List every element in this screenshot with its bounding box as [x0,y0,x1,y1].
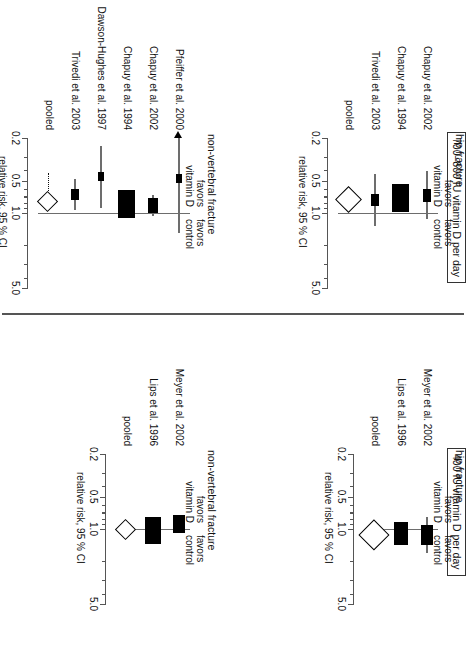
axis-tick [102,512,106,513]
favors-control-label: favorscontrol [432,535,454,565]
axis-tick [350,505,354,506]
axis-tick-label: 0.2 [336,445,347,463]
confidence-interval-line [178,138,179,233]
axis-tick [350,524,354,525]
axis-tick [102,594,106,595]
study-effect-marker [176,174,183,183]
axis-tick [350,594,354,595]
axis-tick [324,157,328,158]
axis-tick [348,454,354,455]
axis-tick-label: 0.2 [310,129,321,147]
study-label: Meyer et al. 2002 [174,369,185,446]
axis-tick [322,181,328,182]
x-axis: 0.20.51.05.0 [310,138,328,288]
axis-tick [100,604,106,605]
null-effect-line [38,213,190,214]
favors-vitamin-d-label: favorsvitamin D [432,155,454,207]
x-axis-label: relative risk, 95 % CI [323,472,334,564]
study-label: Chapuy et al. 2002 [422,46,433,130]
favors-control-label: favorscontrol [184,219,206,249]
study-effect-marker [394,522,408,545]
pooled-effect-diamond [115,519,136,540]
axis-tick [24,208,28,209]
x-axis-label: relative risk, 95 % CI [0,156,8,248]
x-axis-label: relative risk, 95 % CI [75,472,86,564]
axis-tick [350,512,354,513]
axis-tick-label: 5.0 [336,595,347,613]
ci-arrow-icon [174,131,182,138]
favors-vitamin-d-label: favorsvitamin D [184,155,206,207]
panel-outcome-title: hip fracture [454,450,466,503]
axis-tick [102,580,106,581]
axis-tick [24,278,28,279]
axis-tick [102,486,106,487]
axis-tick [322,213,328,214]
pooled-effect-diamond [335,186,362,213]
favors-control-label: favorscontrol [432,219,454,249]
figure-stage: 400 IU vitamin D per dayhip fracturefavo… [0,0,470,651]
axis-tick [324,208,328,209]
axis-tick-label: 0.5 [310,172,321,190]
axis-tick-label: 1.0 [336,520,347,538]
panel-outcome-title: non-vertebral fracture [206,134,218,234]
axis-tick [348,497,354,498]
axis-tick [102,524,106,525]
panel-outcome-title: hip fracture [454,134,466,187]
axis-tick [100,529,106,530]
study-label: Lips et al. 1996 [396,378,407,446]
axis-tick [324,245,328,246]
axis-tick [324,278,328,279]
study-effect-marker [421,525,433,545]
x-axis: 0.20.51.05.0 [10,138,28,288]
axis-tick [348,529,354,530]
panel-outcome-title: non-vertebral fracture [206,450,218,550]
axis-tick-label: 0.5 [88,488,99,506]
study-label: Trivedi et al. 2003 [370,51,381,130]
axis-tick-label: 1.0 [310,204,321,222]
x-axis-label: relative risk, 95 % CI [297,156,308,248]
axis-tick [22,138,28,139]
axis-tick-label: 1.0 [88,520,99,538]
group-separator [2,313,464,315]
axis-tick-label: 0.2 [88,445,99,463]
axis-tick [324,189,328,190]
study-effect-marker [423,189,432,202]
axis-tick [100,454,106,455]
axis-tick [24,157,28,158]
pooled-label: pooled [122,416,133,446]
axis-tick [348,604,354,605]
axis-tick-label: 0.2 [10,129,21,147]
study-effect-marker [145,517,161,544]
axis-tick [102,519,106,520]
axis-tick [22,213,28,214]
study-label: Dawson-Hughes et al. 1997 [96,7,107,130]
axis-tick [24,170,28,171]
axis-tick-label: 5.0 [310,279,321,297]
axis-tick [100,497,106,498]
x-axis: 0.20.51.05.0 [336,454,354,604]
study-effect-marker [371,194,379,206]
pooled-effect-diamond [359,519,390,550]
study-effect-marker [148,198,158,213]
study-effect-marker [393,184,410,212]
axis-tick-label: 0.5 [336,488,347,506]
x-axis: 0.20.51.05.0 [88,454,106,604]
axis-tick [350,473,354,474]
study-label: Meyer et al. 2002 [422,369,433,446]
axis-tick [24,264,28,265]
study-label: Chapuy et al. 2002 [148,46,159,130]
axis-tick [102,505,106,506]
null-effect-line [338,213,438,214]
pooled-label: pooled [44,100,55,130]
favors-control-label: favorscontrol [184,535,206,565]
axis-tick-label: 5.0 [10,279,21,297]
axis-tick [350,580,354,581]
favors-vitamin-d-label: favorsvitamin D [432,471,454,523]
study-effect-marker [71,189,79,200]
axis-tick-label: 0.5 [10,172,21,190]
axis-tick [324,264,328,265]
axis-tick [24,203,28,204]
study-label: Chapuy et al. 1994 [396,46,407,130]
pooled-effect-diamond [37,191,58,212]
axis-tick [102,561,106,562]
